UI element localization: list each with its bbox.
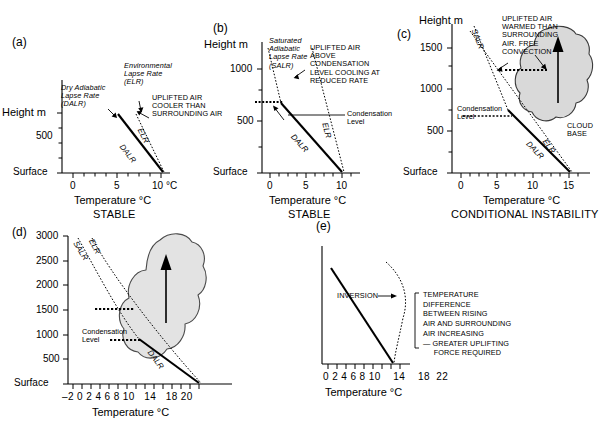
panel-b-xtick-5: 5 [303,180,309,191]
panel-a-xtick-0: 0 [70,180,76,191]
panel-c-xtick-10: 10 [527,180,538,191]
panel-d-ytick-surface: Surface [14,377,48,388]
panel-b-letter: (b) [213,22,228,35]
panel-a-dalr-note: Dry Adiabatic Lapse Rate (DALR) [61,84,105,109]
panel-c-ytick-1000: 1000 [420,83,442,94]
panel-d: (d) 3000 2500 2000 1500 1000 500 Surface… [0,218,290,423]
panel-c-xtick-15: 15 [563,180,574,191]
panel-d-condensation-note: Condensation Level [82,328,127,344]
panel-d-ytick-1500: 1500 [36,304,58,315]
panel-a-y-axis-label: Height m [2,106,46,118]
panel-c-condensation-note: Condensation Level [457,105,502,121]
panel-a-x-axis-label: Temperature °C [74,194,151,206]
panel-c-ytick-500: 500 [427,125,444,136]
panel-b-y-axis-label: Height m [204,38,248,50]
panel-e-inversion-note: INVERSION [337,292,378,300]
panel-a-letter: (a) [12,36,27,49]
panel-d-x-axis-label: Temperature °C [92,406,169,418]
panel-e-x-axis-label: Temperature °C [325,386,402,398]
panel-c-uplift-note: UPLIFTED AIR WARMED THAN SURROUNDING AIR… [502,15,558,56]
panel-d-ytick-500: 500 [43,353,60,364]
panel-e: (e) 0 2 4 6 8 10 14 18 22 Temperature °C… [290,218,612,423]
panel-d-ytick-2500: 2500 [36,255,58,266]
panel-b-uplift-note: UPLIFTED AIR ABOVE CONDENSATION LEVEL CO… [310,44,380,85]
panel-b-salr-note: Saturated Adiabatic Lapse Rate (SALR) [269,37,307,70]
panel-c: (c) Height m 1500 1000 500 Surface 0 5 1… [395,0,612,215]
panel-b-xtick-0: 0 [267,180,273,191]
panel-b-xtick-10: 10 [336,180,347,191]
panel-b-condensation-note: Condensation Level [347,110,392,126]
panel-c-letter: (c) [397,28,411,41]
panel-c-xtick-0: 0 [458,180,464,191]
panel-d-ytick-3000: 3000 [36,230,58,241]
panel-b-ytick-1000: 1000 [230,63,252,74]
panel-d-ytick-2000: 2000 [36,279,58,290]
panel-c-ytick-surface: Surface [403,166,437,177]
panel-b-ytick-500: 500 [237,115,254,126]
panel-c-cloud-base-note: CLOUD BASE [567,122,593,138]
panel-a-xtick-10: 10 °C [152,180,177,191]
panel-a-ytick-surface: Surface [13,166,47,177]
panel-d-ytick-1000: 1000 [36,329,58,340]
panel-d-letter: (d) [12,226,27,239]
panel-e-letter: (e) [316,220,331,233]
panel-c-x-axis-label: Temperature °C [483,194,560,206]
panel-e-xticks: 0 2 4 6 8 10 14 18 22 [323,371,448,382]
panel-b-graphic [205,0,395,215]
panel-e-side-note: TEMPERATURE DIFFERENCE BETWEEN RISING AI… [423,290,511,358]
panel-b: (b) Height m 1000 500 Surface 0 5 10 Tem… [205,0,395,215]
panel-c-xtick-5: 5 [494,180,500,191]
panel-b-ytick-surface: Surface [213,166,247,177]
panel-c-y-axis-label: Height m [419,14,463,26]
panel-a: (a) Height m 500 Surface 0 5 10 °C Tempe… [0,0,205,215]
panel-d-xticks: –2 0 2 4 6 8 10 14 18 20 [62,391,193,402]
panel-a-ytick-500: 500 [36,130,53,141]
panel-b-x-axis-label: Temperature °C [269,194,346,206]
panel-a-elr-note: Environmental Lapse Rate (ELR) [124,62,172,87]
panel-a-xtick-5: 5 [114,180,120,191]
panel-c-ytick-1500: 1500 [420,42,442,53]
